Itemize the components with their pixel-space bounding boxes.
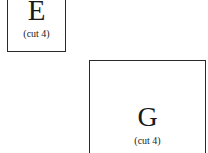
piece-label-e: E [8,0,65,25]
piece-box-e: E (cut 4) [7,0,66,52]
piece-cut-note-g: (cut 4) [90,136,205,146]
piece-label-g: G [90,103,205,131]
piece-box-g: G (cut 4) [89,60,206,153]
piece-cut-note-e: (cut 4) [8,29,65,39]
